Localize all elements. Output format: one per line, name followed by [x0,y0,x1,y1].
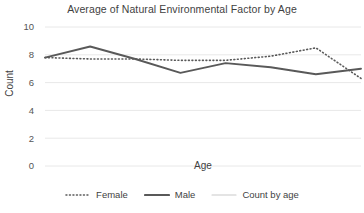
x-axis-title: Age [45,160,361,171]
plot-area [0,0,364,213]
legend-swatch-male [144,191,170,199]
chart-container: Average of Natural Environmental Factor … [0,0,364,213]
legend-item-count-by-age[interactable]: Count by age [211,189,299,200]
legend-swatch-count-by-age [211,191,237,199]
legend-item-male[interactable]: Male [144,189,196,200]
legend-label-count-by-age: Count by age [242,189,299,200]
legend-item-female[interactable]: Female [65,189,128,200]
legend-label-male: Male [175,189,196,200]
legend-swatch-female [65,191,91,199]
legend-label-female: Female [96,189,128,200]
chart-legend: Female Male Count by age [0,189,364,200]
